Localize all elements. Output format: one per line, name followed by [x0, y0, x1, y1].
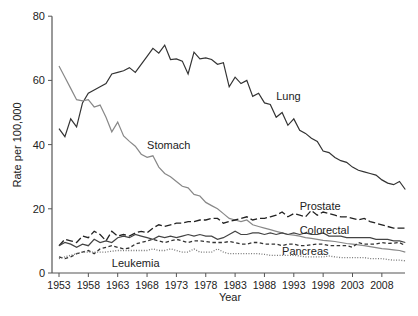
- label-leukemia: Leukemia: [112, 257, 161, 269]
- x-tick-label: 2008: [370, 279, 394, 291]
- label-lung: Lung: [276, 90, 300, 102]
- x-tick-label: 1963: [106, 279, 130, 291]
- y-axis-label: Rate per 100,000: [11, 102, 23, 187]
- x-tick-label: 1953: [47, 279, 71, 291]
- x-tick-label: 1983: [223, 279, 247, 291]
- x-tick-label: 1978: [194, 279, 218, 291]
- label-pancreas: Pancreas: [282, 245, 329, 257]
- x-tick-label: 1958: [77, 279, 101, 291]
- series-lung-line: [59, 45, 405, 189]
- y-tick-label: 80: [33, 10, 45, 22]
- x-tick-label: 1993: [282, 279, 306, 291]
- label-prostate: Prostate: [300, 200, 341, 212]
- y-tick-label: 20: [33, 203, 45, 215]
- series-prostate-line: [59, 210, 405, 245]
- x-tick-label: 2003: [341, 279, 365, 291]
- x-axis-label: Year: [219, 291, 242, 303]
- x-tick-label: 1988: [253, 279, 277, 291]
- x-tick-label: 1998: [311, 279, 335, 291]
- y-tick-label: 0: [39, 267, 45, 279]
- y-tick-label: 40: [33, 139, 45, 151]
- series-labels: LungStomachProstateColorectalPancreasLeu…: [112, 90, 349, 269]
- series-group: [59, 45, 405, 261]
- line-chart: 0204060801953195819631968197319781983198…: [0, 0, 418, 316]
- label-stomach: Stomach: [147, 139, 190, 151]
- series-stomach-line: [59, 66, 405, 252]
- label-colorectal: Colorectal: [300, 224, 350, 236]
- y-tick-label: 60: [33, 74, 45, 86]
- axes: 0204060801953195819631968197319781983198…: [33, 10, 405, 291]
- x-tick-label: 1973: [165, 279, 189, 291]
- x-tick-label: 1968: [135, 279, 159, 291]
- series-colorectal-line: [59, 231, 405, 247]
